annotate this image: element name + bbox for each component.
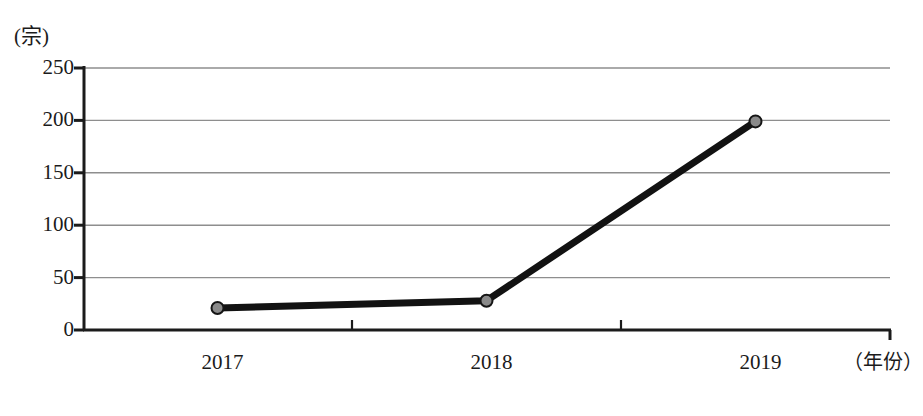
data-point-2019 xyxy=(750,115,762,127)
axis-lines xyxy=(83,66,891,331)
chart-container: (宗) （年份） 250 200 150 100 50 0 2017 2018 … xyxy=(0,0,923,416)
data-point-2017 xyxy=(212,302,224,314)
series-line xyxy=(218,121,756,308)
plot-area xyxy=(0,0,923,416)
data-point-2018 xyxy=(481,295,493,307)
gridlines xyxy=(83,68,890,278)
data-series-line xyxy=(212,115,762,314)
